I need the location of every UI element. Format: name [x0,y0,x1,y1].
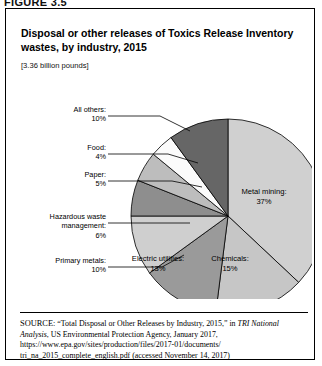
callout-primary-metals-label: Primary metals: [55,256,106,265]
callout-hazardous-waste-value: 6% [95,231,106,240]
pie-chart: All others: 10% Food: 4% Paper: 5% Hazar… [12,71,312,299]
callout-primary-metals: Primary metals: 10% [12,256,106,275]
slice-label-metal-mining-value: 37% [256,197,271,206]
source-text-2: , US Environmental Protection Agency, Ja… [20,330,230,360]
callout-food-label: Food: [87,143,106,152]
callout-paper-label: Paper: [85,170,107,179]
chart-title: Disposal or other releases of Toxics Rel… [21,27,303,54]
callout-food: Food: 4% [12,143,106,162]
source-prefix: SOURCE: [20,319,55,328]
callout-all-others: All others: 10% [12,105,106,124]
source-note: SOURCE: “Total Disposal or Other Release… [20,319,308,361]
callout-hazardous-waste: Hazardous waste management: 6% [12,212,106,240]
callout-paper-value: 5% [95,179,106,188]
callout-hazardous-waste-label: Hazardous waste [50,212,106,221]
callout-all-others-value: 10% [91,114,106,123]
source-text-1: “Total Disposal or Other Releases by Ind… [55,319,237,328]
callout-primary-metals-value: 10% [91,265,106,274]
figure-number: FIGURE 3.5 [4,0,67,8]
slice-label-chemicals-name: Chemicals: [211,254,249,263]
slice-label-chemicals: Chemicals: 15% [192,254,268,274]
figure-container: Disposal or other releases of Toxics Rel… [5,8,315,360]
slice-label-metal-mining-name: Metal mining: [241,187,286,196]
slice-label-electric-utilities-value: 13% [150,264,165,273]
callout-food-value: 4% [95,152,106,161]
slice-label-electric-utilities-name: Electric utilities: [132,254,184,263]
slice-label-metal-mining: Metal mining: 37% [218,187,310,207]
callout-paper: Paper: 5% [12,170,106,189]
callout-hazardous-waste-label2: management: [61,221,106,230]
callout-all-others-label: All others: [74,105,106,114]
chart-units-note: [3.36 billion pounds] [21,61,89,70]
slice-label-chemicals-value: 15% [222,264,237,273]
slice-label-electric-utilities: Electric utilities: 13% [120,254,196,274]
source-divider [20,312,308,313]
